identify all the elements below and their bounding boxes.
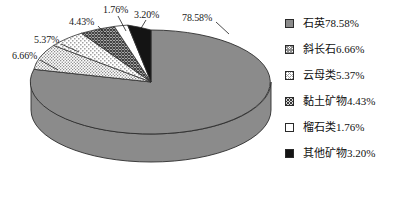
legend-item-clay[interactable]: 黏土矿物4.43% bbox=[285, 94, 375, 108]
callout-label-other: 3.20% bbox=[134, 9, 159, 20]
legend-item-quartz[interactable]: 石英78.58% bbox=[285, 16, 359, 30]
legend-item-mica[interactable]: 云母类5.37% bbox=[285, 68, 364, 82]
chart-legend: 石英78.58% 斜长石6.66% 云母类5.37% 黏土矿物4.43% 榴石类… bbox=[285, 12, 396, 184]
callout-label-clay: 4.43% bbox=[69, 16, 94, 27]
legend-label-mica: 云母类5.37% bbox=[303, 69, 364, 81]
pie-slices bbox=[30, 25, 270, 134]
black-swatch-icon bbox=[285, 149, 294, 158]
fine-dots-swatch-icon bbox=[285, 45, 294, 54]
legend-label-plagioclase: 斜长石6.66% bbox=[303, 43, 364, 55]
legend-label-garnet: 榴石类1.76% bbox=[303, 121, 364, 133]
cross-hatch-swatch-icon bbox=[285, 97, 294, 106]
pie-chart-graphic bbox=[0, 0, 282, 197]
legend-item-garnet[interactable]: 榴石类1.76% bbox=[285, 120, 364, 134]
legend-item-plagioclase[interactable]: 斜长石6.66% bbox=[285, 42, 364, 56]
leader-line-quartz bbox=[216, 22, 229, 34]
legend-label-clay: 黏土矿物4.43% bbox=[303, 95, 375, 107]
pie-chart-figure: 78.58% 6.66% 5.37% 4.43% 1.76% 3.20% 石英7… bbox=[0, 0, 396, 197]
chart-area: 78.58% 6.66% 5.37% 4.43% 1.76% 3.20% bbox=[0, 0, 282, 197]
legend-item-other[interactable]: 其他矿物3.20% bbox=[285, 146, 375, 160]
callout-label-plagioclase: 6.66% bbox=[12, 50, 37, 61]
legend-label-other: 其他矿物3.20% bbox=[303, 147, 375, 159]
callout-label-quartz: 78.58% bbox=[182, 12, 212, 23]
white-swatch-icon bbox=[285, 123, 294, 132]
callout-label-garnet: 1.76% bbox=[103, 4, 128, 15]
callout-label-mica: 5.37% bbox=[34, 34, 59, 45]
coarse-dots-swatch-icon bbox=[285, 71, 294, 80]
solid-gray-swatch-icon bbox=[285, 19, 294, 28]
legend-label-quartz: 石英78.58% bbox=[303, 17, 359, 29]
